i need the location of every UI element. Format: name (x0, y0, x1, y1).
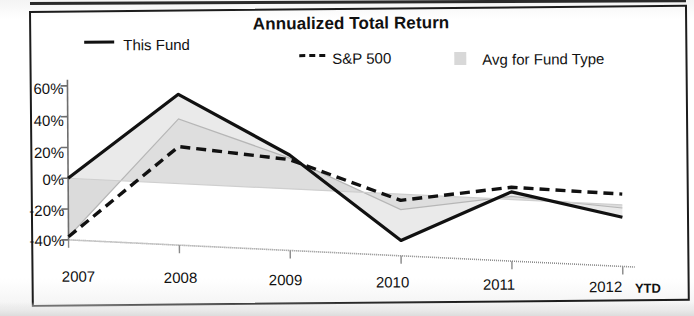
chart-content: Annualized Total Return This Fund S&P 50… (0, 0, 694, 316)
scan-bottom-shadow (0, 302, 694, 316)
chart-screenshot: Annualized Total Return This Fund S&P 50… (0, 0, 694, 316)
plot-area (0, 0, 694, 316)
